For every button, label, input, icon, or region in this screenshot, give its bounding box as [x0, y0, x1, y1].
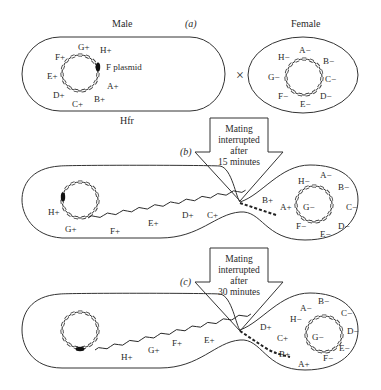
gene-label: A+: [107, 81, 119, 91]
arrow-text: Mating: [225, 124, 253, 134]
gene-label: E+: [47, 71, 58, 81]
gene-label: B−: [318, 296, 329, 306]
gene-label: D+: [53, 90, 65, 100]
female-label: Female: [291, 18, 321, 29]
panel-a-tag: (a): [185, 18, 197, 30]
gene-label: E+: [204, 335, 215, 345]
male-label: Male: [112, 18, 133, 29]
female-chromosome: [286, 59, 322, 95]
gene-label: H−: [290, 314, 302, 324]
gene-label: C−: [341, 308, 352, 318]
gene-label: C−: [325, 74, 336, 84]
gene-label: A−: [300, 303, 312, 313]
f-plasmid-marker: [96, 63, 100, 72]
transferred-dna-strand: [88, 189, 246, 220]
arrow-text: interrupted: [218, 265, 260, 275]
arrow-text: after: [230, 276, 248, 286]
gene-label: H+: [48, 207, 60, 217]
gene-label: D+: [182, 210, 194, 220]
gene-label: C+: [207, 210, 218, 220]
gene-label: D−: [338, 221, 350, 231]
gene-label: G−: [312, 332, 324, 342]
gene-label: G+: [78, 42, 90, 52]
gene-label: H−: [298, 176, 310, 186]
gene-label: B−: [323, 56, 334, 66]
arrow-text: 15 minutes: [218, 157, 260, 167]
panel-c-tag: (c): [180, 276, 192, 288]
gene-label: H+: [100, 45, 112, 55]
gene-label: G−: [303, 202, 315, 212]
gene-label: B+: [94, 94, 105, 104]
gene-label: C+: [277, 333, 288, 343]
gene-label: H+: [121, 352, 133, 362]
gene-label: B+: [262, 195, 273, 205]
gene-label: A−: [299, 45, 311, 55]
male-chromosome-c: [62, 312, 98, 348]
gene-label: H−: [278, 52, 290, 62]
gene-label: F−: [323, 353, 333, 363]
gene-label: F+: [172, 338, 182, 348]
f-factor-marker: [61, 193, 65, 202]
conjugation-diagram: Male (a) Female Hfr F plasmid A+ B+ C+ D…: [0, 0, 381, 390]
arrow-text: interrupted: [218, 135, 260, 145]
male-chromosome-b: [62, 182, 98, 218]
gene-label: E−: [320, 229, 331, 239]
gene-label: F+: [110, 226, 120, 236]
gene-label: D−: [347, 326, 359, 336]
f-factor-marker: [76, 347, 85, 351]
male-chromosome: [62, 55, 98, 91]
gene-label: D+: [260, 322, 272, 332]
panel-a: Male (a) Female Hfr F plasmid A+ B+ C+ D…: [22, 18, 358, 126]
gene-label: A−: [320, 170, 332, 180]
arrow-text: Mating: [225, 254, 253, 264]
arrow-text: 30 minutes: [218, 287, 260, 297]
panel-c: Mating interrupted after 30 minutes (c) …: [22, 248, 359, 370]
gene-label: G−: [268, 72, 280, 82]
panel-b: Mating interrupted after 15 minutes (b) …: [22, 118, 358, 240]
cross-symbol: ×: [236, 68, 244, 83]
gene-label: B−: [338, 182, 349, 192]
gene-label: F−: [296, 221, 306, 231]
panel-b-tag: (b): [180, 146, 192, 158]
gene-label: F+: [55, 52, 65, 62]
gene-label: F−: [278, 91, 288, 101]
gene-label: A+: [280, 202, 292, 212]
gene-label: A+: [298, 359, 310, 369]
gene-label: C+: [72, 99, 83, 109]
gene-label: C−: [346, 202, 357, 212]
gene-label: E−: [339, 343, 350, 353]
gene-label: D−: [320, 91, 332, 101]
hfr-label: Hfr: [120, 115, 135, 126]
gene-label: G+: [148, 345, 160, 355]
f-plasmid-label: F plasmid: [106, 62, 142, 72]
gene-label: G+: [65, 224, 77, 234]
gene-label: E+: [148, 218, 159, 228]
arrow-text: after: [230, 146, 248, 156]
gene-label: E−: [300, 99, 311, 109]
